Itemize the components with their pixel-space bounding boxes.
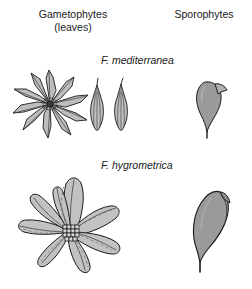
gametophyte-rosette-mediterranea (10, 68, 92, 140)
detached-leaves-mediterranea (82, 78, 140, 134)
sporophyte-capsule-mediterranea (182, 76, 240, 138)
column-header-sporophytes: Sporophytes (160, 8, 248, 21)
gametophyte-rosette-hygrometrica (4, 174, 128, 274)
moss-comparison-figure: Gametophytes (leaves) Sporophytes F. med… (0, 0, 252, 289)
sporophyte-capsule-hygrometrica (180, 184, 242, 272)
species-label-hygrometrica: F. hygrometrica (101, 159, 173, 171)
column-header-gametophytes: Gametophytes (leaves) (14, 8, 132, 33)
species-label-mediterranea: F. mediterranea (101, 54, 174, 66)
